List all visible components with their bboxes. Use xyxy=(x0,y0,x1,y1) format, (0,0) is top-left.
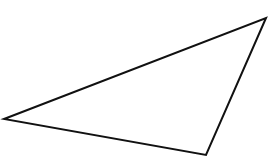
diagram-canvas xyxy=(0,0,269,168)
triangle-shape xyxy=(4,18,266,155)
